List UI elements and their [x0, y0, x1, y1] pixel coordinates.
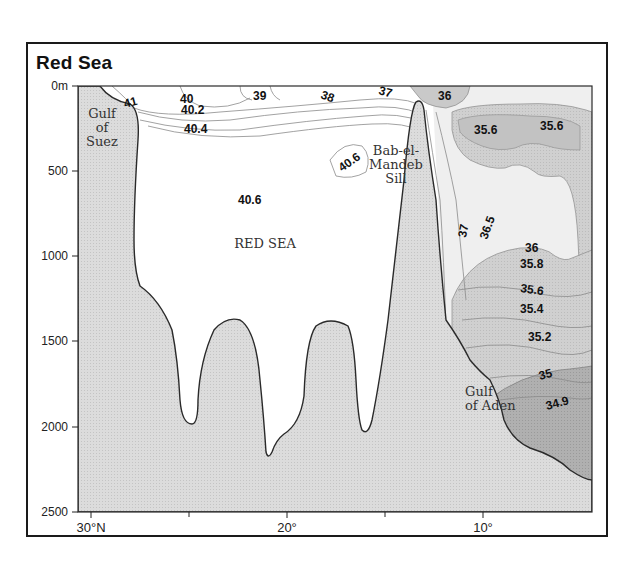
x-tick-30N: 30°N: [76, 520, 105, 535]
contour-35-6-b: 35.6: [540, 119, 564, 133]
contour-40-2: 40.2: [181, 103, 205, 117]
y-tick-500: 500: [48, 164, 68, 178]
y-tick-2000: 2000: [41, 420, 68, 434]
contour-40-6-main: 40.6: [238, 193, 262, 207]
y-axis: 0m 500 1000 1500 2000 2500: [41, 79, 78, 519]
contour-40-4: 40.4: [184, 122, 208, 136]
y-tick-2500: 2500: [41, 505, 68, 519]
contour-35-4: 35.4: [520, 302, 544, 316]
contour-35-2: 35.2: [528, 330, 552, 344]
y-tick-0: 0m: [51, 79, 68, 93]
contour-35-8: 35.8: [520, 257, 544, 271]
contour-36-mid: 36: [525, 241, 539, 255]
x-tick-10: 10°: [473, 520, 493, 535]
y-tick-1000: 1000: [41, 249, 68, 263]
label-bab-el-mandeb-2: Mandeb: [369, 157, 423, 172]
contour-37-mid: 37: [455, 223, 471, 239]
label-red-sea: RED SEA: [234, 236, 296, 251]
y-tick-1500: 1500: [41, 334, 68, 348]
contour-39: 39: [253, 89, 267, 103]
label-gulf-of-aden-2: of Aden: [465, 398, 516, 413]
salinity-cross-section: 0m 500 1000 1500 2000 2500 30°N 20° 10° …: [0, 0, 631, 588]
label-gulf-of-suez-1: Gulf: [88, 106, 117, 121]
x-axis: 30°N 20° 10°: [76, 512, 492, 535]
contour-35-6-a: 35.6: [474, 123, 498, 137]
label-gulf-of-suez-3: Suez: [86, 134, 118, 149]
label-gulf-of-suez-2: of: [96, 120, 110, 135]
x-tick-20: 20°: [277, 520, 297, 535]
label-bab-el-mandeb-1: Bab-el-: [373, 143, 419, 158]
label-gulf-of-aden-1: Gulf: [465, 384, 494, 399]
contour-36-top: 36: [438, 89, 452, 103]
label-bab-el-mandeb-3: Sill: [385, 171, 406, 186]
